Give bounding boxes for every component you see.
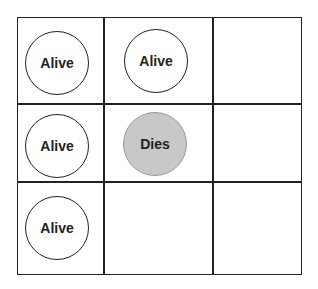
cell-label: Alive — [40, 55, 73, 71]
cell-1-1-dies: Dies — [123, 112, 187, 176]
cell-2-0-alive: Alive — [25, 196, 89, 260]
cell-label: Dies — [140, 136, 170, 152]
cell-label: Alive — [40, 220, 73, 236]
cell-grid: Alive Alive Alive Dies Alive — [17, 17, 302, 275]
cell-label: Alive — [40, 138, 73, 154]
grid-divider-vertical-2 — [212, 18, 214, 274]
grid-divider-horizontal-1 — [18, 103, 301, 105]
cell-0-1-alive: Alive — [124, 29, 188, 93]
grid-divider-horizontal-2 — [18, 181, 301, 183]
cell-label: Alive — [139, 53, 172, 69]
cell-0-0-alive: Alive — [25, 31, 89, 95]
grid-divider-vertical-1 — [103, 18, 105, 274]
cell-1-0-alive: Alive — [25, 114, 89, 178]
